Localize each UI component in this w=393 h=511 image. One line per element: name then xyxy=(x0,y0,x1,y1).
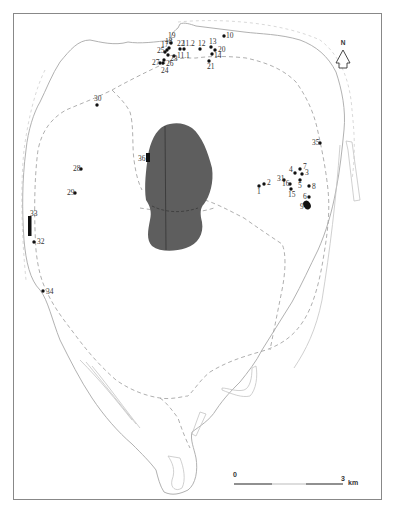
site-dot-icon xyxy=(41,289,44,292)
site-dot-icon xyxy=(307,184,310,187)
site-marker: 10 xyxy=(222,31,233,40)
southern-islet xyxy=(222,366,257,397)
site-label: 35 xyxy=(312,138,320,147)
site-marker: 1 xyxy=(257,184,261,196)
site-label: 15 xyxy=(288,190,296,199)
site-marker: 29 xyxy=(67,188,77,197)
site-dot-icon xyxy=(293,171,296,174)
site-label: 12 xyxy=(198,39,206,48)
site-marker: 36 xyxy=(138,154,146,163)
map-frame xyxy=(14,14,382,500)
site-label: 9 xyxy=(300,202,304,211)
site-label: 30 xyxy=(94,94,102,103)
site-label: 1 xyxy=(257,187,261,196)
north-arrow-icon xyxy=(336,50,350,68)
site-marker: 15 xyxy=(288,187,296,199)
scale-bar: 0 3 km xyxy=(233,471,358,486)
site-marker: 35 xyxy=(312,138,322,147)
site-marker: 28 xyxy=(73,164,83,173)
site-label: 22 xyxy=(177,39,185,48)
site-marker: 2 xyxy=(262,178,271,187)
site-label: 6 xyxy=(303,192,307,201)
site-marker: 12 xyxy=(198,39,206,51)
site-label: 21 xyxy=(207,62,215,71)
southeast-tongue xyxy=(192,412,206,436)
scale-end-label: 3 xyxy=(341,475,345,482)
site-label: 33 xyxy=(30,209,38,218)
site-marker: 13 xyxy=(209,37,217,49)
interior-track-west xyxy=(112,90,142,190)
site-label: 34 xyxy=(46,287,54,296)
site-dot-icon xyxy=(262,182,265,185)
site-label: 19 xyxy=(168,31,176,40)
site-dot-icon xyxy=(300,172,303,175)
site-marker: 32 xyxy=(32,237,44,246)
site-dot-icon xyxy=(95,103,98,106)
site-label: 11.1 xyxy=(177,51,190,60)
site-label: 4 xyxy=(289,165,293,174)
site-dot-icon xyxy=(307,195,310,198)
southern-spit xyxy=(168,456,184,490)
interior-track-south xyxy=(160,398,190,448)
site-marker: 30 xyxy=(94,94,102,107)
site-label: 29 xyxy=(67,188,75,197)
site-label: 25 xyxy=(157,46,165,55)
scale-start-label: 0 xyxy=(233,471,237,478)
site-dot-icon xyxy=(161,61,164,64)
scale-unit-label: km xyxy=(348,479,358,486)
eastern-shore xyxy=(294,145,340,368)
site-36-bar xyxy=(146,153,150,162)
site-marker: 5 xyxy=(298,178,302,190)
site-marker: 7 xyxy=(298,162,307,171)
site-label: 7 xyxy=(303,162,307,171)
site-33-bar xyxy=(28,216,32,236)
site-marker: 31 xyxy=(277,174,286,183)
site-label: 32 xyxy=(37,237,45,246)
site-label: 36 xyxy=(138,154,146,163)
site-label: 28 xyxy=(73,164,81,173)
site-label: 31 xyxy=(277,174,285,183)
north-arrow: N xyxy=(336,39,350,68)
site-marker: 21 xyxy=(207,59,215,71)
site-marker: 8 xyxy=(307,182,316,191)
site-dot-icon xyxy=(298,167,301,170)
archaeological-site-map: 1234567891011.111.2121314151617181920212… xyxy=(0,0,393,511)
site-dot-icon xyxy=(32,240,35,243)
site-marker: 9 xyxy=(300,202,304,211)
site-dot-icon xyxy=(213,48,216,51)
site-label: 27 xyxy=(152,58,160,67)
site-dot-icon xyxy=(169,41,172,44)
site-label: 13 xyxy=(209,37,217,46)
island-coastline xyxy=(23,23,345,494)
north-label: N xyxy=(341,39,346,46)
site-dot-icon xyxy=(167,46,170,49)
eastern-peninsula xyxy=(346,141,360,201)
site-label: 20 xyxy=(218,45,226,54)
site-marker: 4 xyxy=(289,165,297,175)
site-label: 5 xyxy=(298,181,302,190)
site-marker: 33 xyxy=(30,209,38,218)
site-marker: 6 xyxy=(303,192,311,201)
site-label: 10 xyxy=(226,31,234,40)
site-label: 26 xyxy=(166,59,174,68)
site-label: 8 xyxy=(312,182,316,191)
interior-track-east xyxy=(198,198,285,350)
central-lake xyxy=(145,123,212,251)
site-label: 2 xyxy=(267,178,271,187)
